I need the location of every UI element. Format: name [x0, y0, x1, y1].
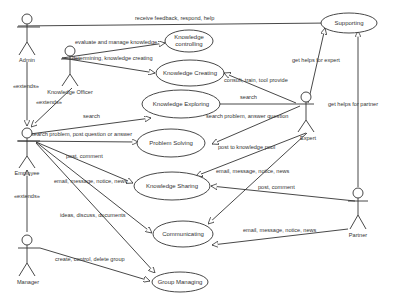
label-extends-manager: «extends» — [14, 193, 40, 199]
actor-manager[interactable]: Manager — [17, 235, 39, 285]
use-case-label: Knowledge Exploring — [153, 101, 209, 107]
label-expert-creating: consult, train, tool provide — [224, 77, 288, 83]
use-case-group-managing[interactable]: Group Managing — [152, 272, 208, 292]
label-employee-communicating: ideas, discuss, documents — [60, 212, 126, 218]
use-case-label: Knowledge Creating — [163, 70, 217, 76]
label-ko-controlling: evaluate and manage knowledge — [75, 39, 157, 45]
use-case-problem-solving[interactable]: Problem Solving — [137, 129, 205, 157]
use-case-label-line1: Knowledge — [174, 34, 204, 40]
use-case-label: Supporting — [334, 20, 363, 26]
actor-label: Expert — [300, 135, 317, 141]
actor-label: Employee — [15, 170, 40, 176]
label-employee-sharing-email: email, message, notice, news — [54, 178, 128, 184]
label-manager-group: create, control, delete group — [55, 256, 125, 262]
use-case-supporting[interactable]: Supporting — [321, 13, 377, 33]
label-employee-problem: search problem, post question or answer — [31, 131, 132, 137]
assoc-expert-problem — [212, 106, 300, 144]
actor-label: Admin — [19, 57, 35, 63]
actor-label: Partner — [349, 232, 367, 238]
stick-figure-icon — [296, 92, 314, 132]
stick-figure-icon — [17, 14, 40, 55]
label-expert-exploring: search — [240, 94, 257, 100]
label-partner-communicating: email, message, notice, news — [243, 227, 317, 233]
assoc-expert-supporting — [308, 28, 325, 103]
use-case-diagram: receive feedback, respond, help evaluate… — [0, 0, 396, 302]
use-case-label-line2: controlling — [175, 41, 202, 47]
use-case-knowledge-exploring[interactable]: Knowledge Exploring — [142, 90, 220, 118]
label-expert-supporting: get helps for expert — [292, 57, 340, 63]
use-case-label: Communicating — [162, 231, 204, 237]
assoc-employee-group — [36, 143, 155, 273]
actor-label: Knowledge Officer — [47, 89, 93, 95]
use-case-label: Group Managing — [158, 279, 203, 285]
label-employee-exploring: search — [83, 113, 100, 119]
stick-figure-icon — [61, 46, 80, 86]
use-case-knowledge-controlling[interactable]: Knowledge controlling — [165, 30, 213, 52]
label-admin-supporting: receive feedback, respond, help — [135, 15, 214, 21]
stick-figure-icon — [19, 235, 35, 276]
use-case-knowledge-creating[interactable]: Knowledge Creating — [156, 60, 224, 86]
label-expert-communicating: email, message, notice, news — [216, 168, 290, 174]
label-extends-ko: «extends» — [36, 99, 62, 105]
actor-knowledge-officer[interactable]: Knowledge Officer — [47, 46, 93, 95]
label-expert-sharing: post to knowledge pool — [218, 144, 275, 150]
assoc-manager-group — [40, 248, 150, 281]
label-partner-supporting: get helps for partner — [328, 101, 378, 107]
use-case-label: Knowledge Sharing — [146, 183, 198, 189]
label-employee-sharing-post: post, comment — [66, 153, 103, 159]
use-case-knowledge-sharing[interactable]: Knowledge Sharing — [134, 172, 210, 200]
assoc-admin-supporting — [18, 23, 330, 26]
use-case-label: Problem Solving — [149, 140, 193, 146]
assoc-employee-sharing — [36, 142, 133, 183]
label-extends-admin: «extends» — [13, 83, 39, 89]
actor-admin[interactable]: Admin — [17, 14, 40, 63]
actor-label: Manager — [17, 279, 39, 285]
stick-figure-icon — [348, 188, 368, 229]
label-ko-creating: determining, knowledge creating — [72, 55, 153, 61]
actor-partner[interactable]: Partner — [348, 188, 368, 238]
use-case-communicating[interactable]: Communicating — [153, 221, 213, 247]
label-expert-problem: search problem, answer question — [206, 113, 288, 119]
label-partner-sharing: post, comment — [258, 184, 295, 190]
